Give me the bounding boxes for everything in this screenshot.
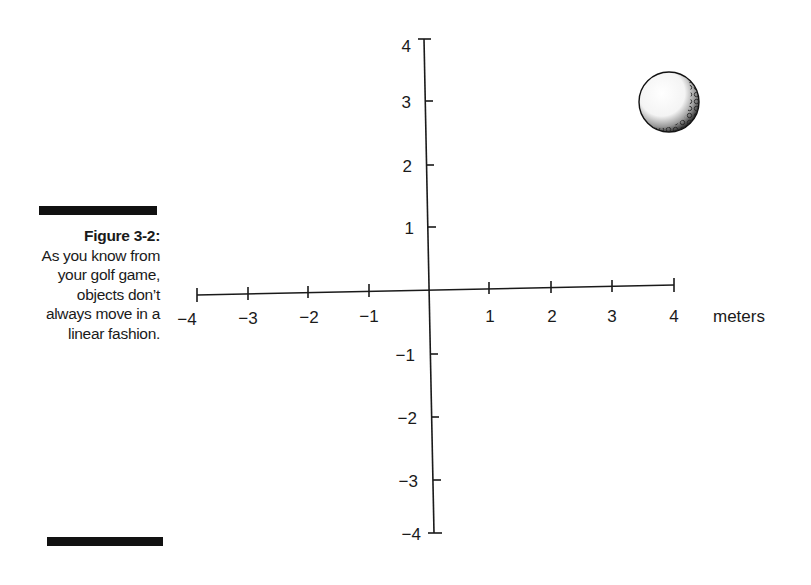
x-tick-label: 2 <box>547 307 556 326</box>
y-tick-label: 3 <box>402 93 411 112</box>
x-tick-label: −2 <box>299 308 318 327</box>
y-tick-label: 2 <box>403 157 412 176</box>
y-tick-label: 1 <box>405 219 414 238</box>
x-tick-label: 3 <box>607 307 616 326</box>
x-tick-labels: −4 −3 −2 −1 1 2 3 4 <box>177 307 678 329</box>
x-tick-label: −1 <box>359 307 378 326</box>
y-tick-label: 4 <box>402 37 411 56</box>
y-tick-label: −4 <box>402 525 421 544</box>
x-tick-label: −4 <box>177 310 196 329</box>
coordinate-plane: −4 −3 −2 −1 1 2 3 4 meters 4 3 2 1 −1 −2… <box>0 0 811 585</box>
y-tick-label: −1 <box>396 346 415 365</box>
y-tick-label: −2 <box>398 409 417 428</box>
golf-ball-icon <box>630 60 710 150</box>
y-axis <box>418 39 442 533</box>
x-axis-title: meters <box>713 307 765 326</box>
y-tick-label: −3 <box>399 472 418 491</box>
x-axis <box>197 278 674 302</box>
x-tick-label: −3 <box>238 309 257 328</box>
x-tick-label: 1 <box>485 307 494 326</box>
x-tick-label: 4 <box>669 307 678 326</box>
